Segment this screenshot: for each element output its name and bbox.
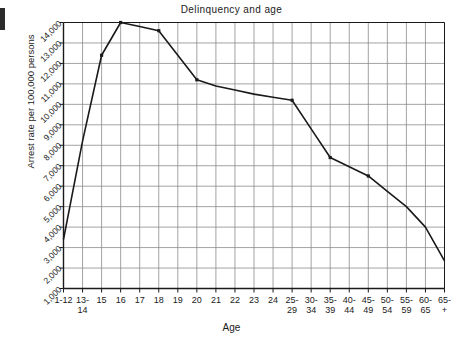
vertical-gridlines	[64, 23, 445, 289]
chart-figure: Delinquency and age Arrest rate per 100,…	[0, 0, 463, 347]
x-tick-label: 65-+	[431, 295, 459, 316]
x-tick-marks	[64, 289, 445, 293]
